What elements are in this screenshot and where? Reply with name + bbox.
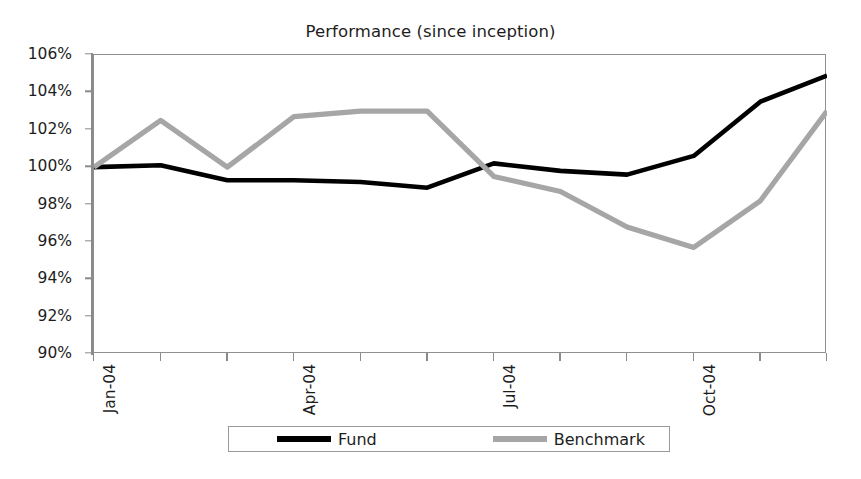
series-line-fund <box>94 76 827 188</box>
y-axis-tick-label: 100% <box>28 157 72 175</box>
x-axis-tick-label-text: Oct-04 <box>701 364 719 416</box>
y-axis-tick-label: 104% <box>28 82 72 100</box>
y-axis-tick-label: 102% <box>28 120 72 138</box>
x-axis-tick <box>693 353 694 361</box>
x-axis-tick-label-text: Jan-04 <box>101 364 119 413</box>
y-axis-tick-label: 92% <box>38 307 72 325</box>
y-axis-tick-label: 106% <box>28 45 72 63</box>
x-axis-tick-label: Jul-04 <box>501 364 519 408</box>
x-axis-tick <box>226 353 227 361</box>
x-axis-tick <box>626 353 627 361</box>
performance-chart: Performance (since inception) 106%104%10… <box>0 0 861 479</box>
x-axis-tick-label: Jan-04 <box>101 364 119 413</box>
y-axis-tick-label: 94% <box>38 269 72 287</box>
x-axis-tick-label-text: Jul-04 <box>501 364 519 408</box>
series-lines <box>94 55 827 354</box>
series-line-benchmark <box>94 111 827 247</box>
x-axis-tick <box>160 353 161 361</box>
line-swatch-icon <box>493 436 547 442</box>
y-axis-tick-label: 98% <box>38 195 72 213</box>
x-axis-tick <box>93 353 94 361</box>
legend-label-benchmark: Benchmark <box>554 430 645 449</box>
x-axis-tick <box>559 353 560 361</box>
y-axis-tick-label: 96% <box>38 232 72 250</box>
chart-title: Performance (since inception) <box>0 22 861 41</box>
x-axis-tick <box>493 353 494 361</box>
line-swatch-icon <box>277 436 331 442</box>
x-axis-tick <box>759 353 760 361</box>
x-axis-tick <box>360 353 361 361</box>
x-axis-tick <box>426 353 427 361</box>
legend-entry-fund: Fund <box>277 427 377 451</box>
x-axis-tick-label: Apr-04 <box>301 364 319 415</box>
y-axis-tick-label: 90% <box>38 344 72 362</box>
plot-area <box>93 54 826 353</box>
chart-legend: Fund Benchmark <box>228 426 670 452</box>
legend-entry-benchmark: Benchmark <box>493 427 645 451</box>
x-axis-tick <box>293 353 294 361</box>
x-axis-tick-label-text: Apr-04 <box>301 364 319 415</box>
legend-label-fund: Fund <box>338 430 377 449</box>
x-axis-tick <box>826 353 827 361</box>
x-axis-tick-label: Oct-04 <box>701 364 719 416</box>
